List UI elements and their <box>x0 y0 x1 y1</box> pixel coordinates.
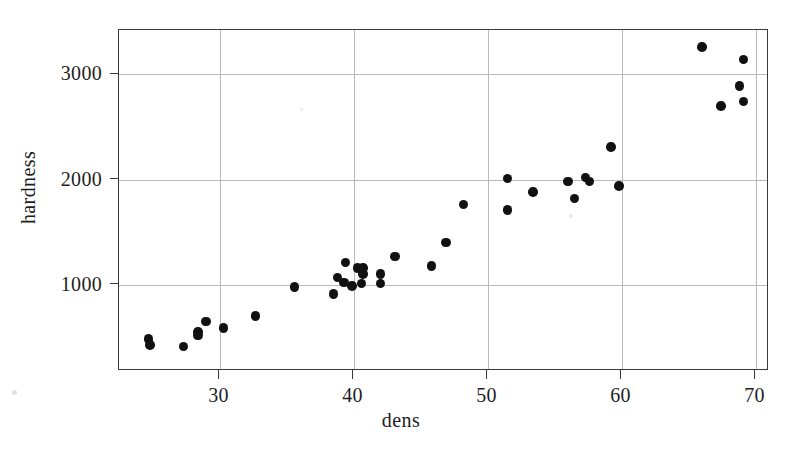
data-point <box>333 273 343 283</box>
data-point <box>341 258 351 268</box>
data-point <box>347 281 357 291</box>
data-points <box>119 30 767 369</box>
gridline-vertical <box>220 30 221 369</box>
data-point <box>503 205 513 215</box>
data-point <box>735 81 745 91</box>
page-speck <box>300 108 303 111</box>
data-point <box>145 340 155 350</box>
data-point <box>697 42 707 52</box>
x-tick-label: 70 <box>715 384 795 406</box>
page-speck <box>12 390 17 395</box>
x-axis-label: dens <box>0 409 802 432</box>
data-point <box>358 263 368 273</box>
data-point <box>290 282 300 292</box>
data-point <box>606 142 616 152</box>
data-point <box>193 331 203 341</box>
plot-area <box>118 29 768 370</box>
x-tick-mark <box>486 370 488 379</box>
data-point <box>585 177 595 187</box>
data-point <box>339 278 349 288</box>
y-tick-label: 1000 <box>30 274 102 294</box>
data-point <box>441 238 451 248</box>
data-point <box>358 269 368 279</box>
y-tick-label: 3000 <box>30 63 102 83</box>
x-tick-mark <box>754 370 756 379</box>
y-tick-label: 2000 <box>30 169 102 189</box>
data-point <box>201 317 211 327</box>
data-point <box>251 311 261 321</box>
data-point <box>503 174 513 184</box>
gridline-vertical <box>488 30 489 369</box>
data-point <box>357 279 367 289</box>
x-tick-mark <box>352 370 354 379</box>
gridline-vertical <box>756 30 757 369</box>
data-point <box>581 173 591 183</box>
data-point <box>376 279 386 289</box>
gridline-horizontal <box>119 285 767 286</box>
data-point <box>716 101 726 111</box>
data-point <box>570 194 580 204</box>
x-tick-label: 30 <box>179 384 259 406</box>
data-point <box>739 55 749 65</box>
x-tick-mark <box>620 370 622 379</box>
data-point <box>376 269 386 279</box>
gridline-vertical <box>622 30 623 369</box>
data-point <box>459 200 469 210</box>
scatter-plot-figure: hardness 100020003000 3040506070 dens <box>0 0 802 450</box>
data-point <box>390 252 400 262</box>
gridline-vertical <box>354 30 355 369</box>
data-point <box>427 261 437 271</box>
gridline-horizontal <box>119 74 767 75</box>
data-point <box>193 327 203 337</box>
data-point <box>528 187 538 197</box>
x-tick-label: 50 <box>447 384 527 406</box>
data-point <box>563 177 573 187</box>
x-tick-label: 40 <box>313 384 393 406</box>
data-point <box>329 289 339 299</box>
data-point <box>144 334 154 344</box>
x-tick-label: 60 <box>581 384 661 406</box>
data-point <box>739 97 749 107</box>
data-point <box>179 342 189 352</box>
gridline-horizontal <box>119 180 767 181</box>
page-speck <box>569 214 573 218</box>
x-tick-mark <box>218 370 220 379</box>
